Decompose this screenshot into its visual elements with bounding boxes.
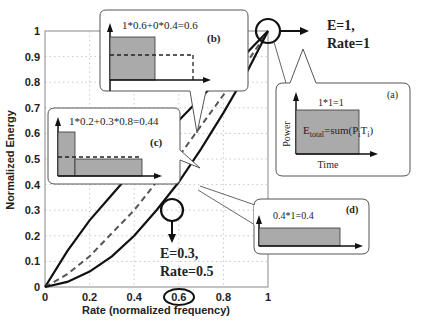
energy-rate-chart: 00.10.20.30.40.50.60.70.80.91 00.20.40.6… [0,0,421,328]
y-tick-label: 0.9 [25,51,40,63]
callout-b-tag: (b) [207,32,221,45]
callout-c-tag: (c) [150,136,163,149]
x-tick-label: 0.4 [127,291,143,303]
callout-a-formula: 1*1=1 [318,97,344,108]
callout-b-formula: 1*0.6+0*0.4=0.6 [122,19,198,31]
x-tick-label: 0.8 [216,291,231,303]
x-tick-label: 0 [42,291,48,303]
y-tick-label: 0.8 [25,76,40,88]
x-tick-label: 1 [265,291,271,303]
y-tick-label: 0.4 [25,179,41,191]
x-axis-label: Rate (normalized frequency) [82,304,230,316]
callout-a-y-label: Power [281,121,292,147]
y-tick-label: 0 [34,281,40,293]
x-tick-label: 0.2 [82,291,97,303]
mid-point-label-line1: E=0.3, [160,246,198,261]
callout-c: 1*0.2+0.3*0.8=0.44 (c) [48,108,200,184]
y-axis-label: Normalized Energy [4,109,16,210]
y-tick-label: 0.1 [25,255,40,267]
y-tick-label: 0.3 [25,204,40,216]
x-axis-ticks: 00.20.40.60.81 [42,291,271,303]
mid-point-marker [161,199,183,243]
y-tick-label: 0.6 [25,127,40,139]
y-tick-label: 0.2 [25,230,40,242]
y-axis-ticks: 00.10.20.30.40.50.60.70.80.91 [25,25,41,293]
callout-d-formula: 0.4*1=0.4 [273,210,314,221]
callout-a-tag: (a) [387,89,398,101]
top-point-label-line2: Rate=1 [327,36,370,51]
callout-a-x-label: Time [318,159,339,170]
callout-a: 1*1=1 (a) Etotal=sum(PiTi) Power Time [262,42,410,176]
callout-c-formula: 1*0.2+0.3*0.8=0.44 [69,115,159,127]
y-tick-label: 0.7 [25,102,40,114]
y-tick-label: 1 [34,25,40,37]
x-tick-label: 0.6 [171,291,186,303]
top-point-label-line1: E=1, [327,18,355,33]
callout-d-tag: (d) [346,204,358,216]
y-tick-label: 0.5 [25,153,40,165]
mid-point-label-line2: Rate=0.5 [160,264,213,279]
